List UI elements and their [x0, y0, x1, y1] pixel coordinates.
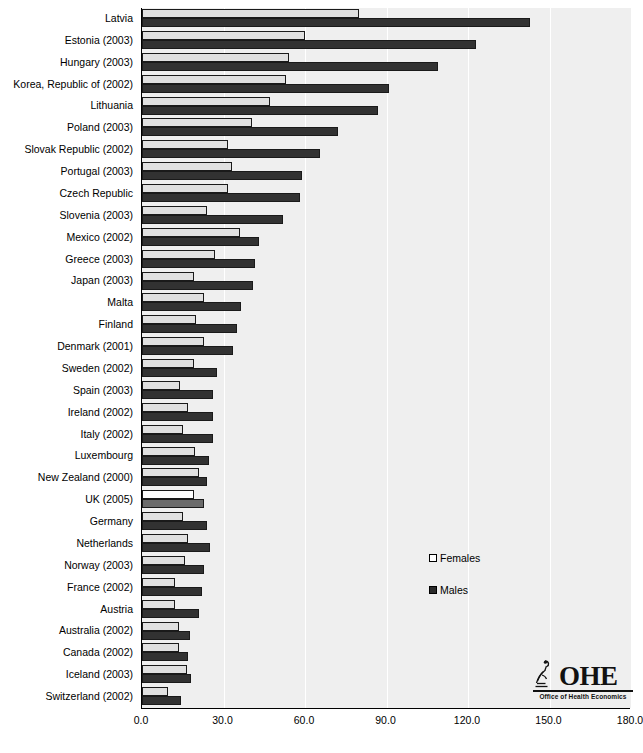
bar-female [142, 53, 289, 62]
bar-female [142, 272, 194, 281]
bar-male [142, 193, 300, 202]
x-axis-tick-labels: 0.030.060.090.0120.0150.0180.0 [0, 714, 640, 734]
category-label: Switzerland (2002) [0, 691, 133, 702]
category-label: Luxembourg [0, 450, 133, 461]
bar-row [142, 358, 631, 380]
chart-legend: Females Males [429, 552, 539, 616]
bar-male [142, 259, 255, 268]
bar-female [142, 228, 240, 237]
bar-male [142, 565, 204, 574]
bar-male [142, 106, 378, 115]
x-tick-label: 90.0 [375, 714, 395, 726]
x-tick-label: 120.0 [454, 714, 480, 726]
bar-female [142, 447, 195, 456]
plot-area [141, 8, 631, 708]
bar-male [142, 171, 302, 180]
logo-subtitle: Office of Health Economics [533, 693, 633, 700]
bar-row [142, 227, 631, 249]
bar-male [142, 40, 476, 49]
bar-female [142, 75, 286, 84]
bar-female [142, 315, 196, 324]
bar-row [142, 30, 631, 52]
bar-male [142, 18, 530, 27]
category-label: Norway (2003) [0, 560, 133, 571]
bar-female [142, 425, 183, 434]
bar-row [142, 446, 631, 468]
bar-female [142, 118, 252, 127]
category-label: Canada (2002) [0, 647, 133, 658]
bar-row [142, 511, 631, 533]
bar-rows [142, 8, 631, 708]
top-margin [0, 0, 640, 8]
bar-male [142, 302, 241, 311]
category-label: France (2002) [0, 582, 133, 593]
category-label: Estonia (2003) [0, 35, 133, 46]
category-label: Sweden (2002) [0, 363, 133, 374]
bar-row [142, 271, 631, 293]
x-tick-label: 30.0 [212, 714, 232, 726]
bar-male [142, 652, 188, 661]
bar-male [142, 499, 204, 508]
logo-row: OHE [533, 658, 633, 690]
bar-female [142, 359, 194, 368]
bar-row [142, 577, 631, 599]
bar-female [142, 643, 179, 652]
bar-female [142, 31, 305, 40]
category-label: Portugal (2003) [0, 166, 133, 177]
category-label: Hungary (2003) [0, 57, 133, 68]
bar-row [142, 402, 631, 424]
bar-row [142, 183, 631, 205]
category-label: Slovenia (2003) [0, 210, 133, 221]
bar-row [142, 621, 631, 643]
category-label: Finland [0, 319, 133, 330]
bar-female [142, 206, 207, 215]
bar-row [142, 555, 631, 577]
category-label: Japan (2003) [0, 275, 133, 286]
category-label: Iceland (2003) [0, 669, 133, 680]
bar-female [142, 600, 175, 609]
bar-row [142, 292, 631, 314]
bar-female [142, 184, 228, 193]
bar-male [142, 149, 320, 158]
bar-male [142, 346, 233, 355]
bar-male [142, 237, 259, 246]
ohe-logo: OHE Office of Health Economics [533, 658, 633, 702]
bar-male [142, 456, 209, 465]
bar-row [142, 8, 631, 30]
bar-row [142, 467, 631, 489]
bar-row [142, 533, 631, 555]
bar-female [142, 381, 180, 390]
legend-item-females: Females [429, 552, 539, 564]
gridline-180.0 [631, 8, 632, 708]
category-label: Germany [0, 516, 133, 527]
category-label: Australia (2002) [0, 625, 133, 636]
x-tick-label: 180.0 [617, 714, 643, 726]
bar-male [142, 390, 213, 399]
bar-row [142, 52, 631, 74]
bar-row [142, 96, 631, 118]
legend-swatch-females-icon [429, 554, 437, 562]
bar-row [142, 249, 631, 271]
category-label: Slovak Republic (2002) [0, 144, 133, 155]
bar-row [142, 205, 631, 227]
category-label: Poland (2003) [0, 122, 133, 133]
bar-female [142, 293, 204, 302]
category-label: Korea, Republic of (2002) [0, 79, 133, 90]
category-label: Czech Republic [0, 188, 133, 199]
bar-female [142, 9, 359, 18]
bar-female [142, 250, 215, 259]
legend-item-males: Males [429, 584, 539, 596]
bar-male [142, 521, 207, 530]
bar-female [142, 468, 199, 477]
legend-swatch-males-icon [429, 586, 437, 594]
bar-row [142, 424, 631, 446]
bar-male [142, 215, 283, 224]
bar-female [142, 622, 179, 631]
bar-male [142, 62, 438, 71]
category-label: Latvia [0, 13, 133, 24]
bar-male [142, 696, 181, 705]
category-axis-labels: LatviaEstonia (2003)Hungary (2003)Korea,… [0, 8, 133, 708]
bar-male [142, 609, 199, 618]
bar-male [142, 324, 237, 333]
bar-female [142, 665, 187, 674]
